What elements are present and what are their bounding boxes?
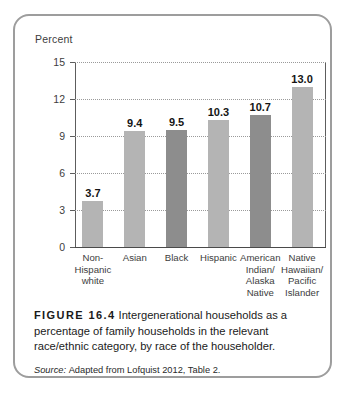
bar-value-label: 3.7 [85, 187, 100, 199]
y-axis-tick-mark [70, 173, 75, 174]
x-axis-category-label: Native Hawaiian/ Pacific Islander [277, 252, 327, 298]
y-axis-tick-mark [70, 247, 75, 248]
y-axis-tick-label: 12 [39, 93, 65, 105]
y-axis-tick-label: 6 [39, 167, 65, 179]
bar [166, 130, 187, 247]
y-axis-tick-mark [70, 62, 75, 63]
bar-chart: Percent 03691215 3.79.49.510.310.713.0 N… [15, 16, 330, 299]
plot-right-border [325, 62, 326, 248]
figure-caption: FIGURE 16.4 Intergenerational households… [34, 308, 316, 355]
source-label: Source: [34, 365, 66, 375]
bar-value-label: 13.0 [291, 73, 312, 85]
y-axis-tick-label: 9 [39, 130, 65, 142]
y-axis-tick-label: 0 [39, 241, 65, 253]
y-axis-tick-mark [70, 210, 75, 211]
gridline [75, 99, 326, 100]
y-axis-tick-label: 15 [39, 56, 65, 68]
bar [292, 87, 313, 247]
gridline [75, 173, 326, 174]
y-axis-tick-mark [70, 136, 75, 137]
bar [250, 115, 271, 247]
bar [82, 201, 103, 247]
source-text: Adapted from Lofquist 2012, Table 2. [69, 365, 221, 375]
gridline [75, 136, 326, 137]
y-axis-tick-mark [70, 99, 75, 100]
figure-caption-block: FIGURE 16.4 Intergenerational households… [34, 308, 316, 376]
figure-source: Source: Adapted from Lofquist 2012, Tabl… [34, 364, 316, 376]
bar [124, 131, 145, 247]
y-axis-tick-label: 3 [39, 204, 65, 216]
bar-value-label: 10.7 [250, 101, 271, 113]
figure-number: FIGURE 16.4 [34, 309, 115, 321]
bar [208, 120, 229, 247]
gridline [75, 62, 326, 63]
y-axis-title: Percent [35, 33, 73, 45]
y-axis-line [75, 62, 76, 248]
bar-value-label: 9.4 [127, 117, 142, 129]
x-axis-line [75, 247, 326, 248]
figure-card: Percent 03691215 3.79.49.510.310.713.0 N… [13, 14, 332, 378]
bar-value-label: 9.5 [169, 116, 184, 128]
bar-value-label: 10.3 [208, 106, 229, 118]
gridline [75, 210, 326, 211]
